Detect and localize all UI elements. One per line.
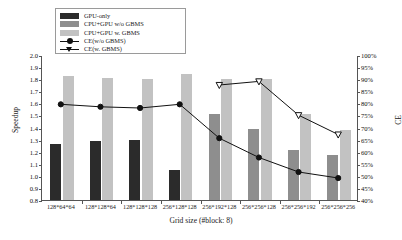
y-tick-mark-right (357, 165, 360, 166)
y-tick-mark-right (357, 129, 360, 130)
legend-item: CE(w/o GBMS) (60, 37, 181, 45)
y-tick-label-left: 1.6 (30, 101, 38, 108)
legend-swatch-cpu-gpu-wo-gbms (60, 21, 79, 27)
y-tick-label-right: 65% (361, 137, 373, 144)
y-tick-label-left: 1.1 (30, 161, 38, 168)
y-tick-mark-left (39, 116, 42, 117)
y-tick-mark-left (39, 153, 42, 154)
y-tick-mark-left (39, 141, 42, 142)
y-tick-label-right: 45% (361, 186, 373, 193)
y-tick-mark-right (357, 153, 360, 154)
x-tick-label: 256*256*192 (282, 204, 316, 210)
y-tick-mark-left (39, 177, 42, 178)
y-tick-mark-left (39, 68, 42, 69)
y-tick-label-right: 85% (361, 89, 373, 96)
x-tick-label: 256*192*128 (202, 204, 236, 210)
y-tick-mark-right (357, 177, 360, 178)
y-tick-mark-right (357, 80, 360, 81)
x-tick-label: 256*128*128 (163, 204, 197, 210)
bar-cpu-gpu-w-gbms (102, 78, 113, 200)
legend-line-ce-w-gbms (60, 46, 79, 52)
y-tick-label-left: 0.8 (30, 198, 38, 205)
x-tick-label: 256*256*256 (321, 204, 355, 210)
legend-item: GPU-only (60, 12, 181, 20)
plot-area: 2.01.91.81.71.61.51.41.31.21.11.00.90.81… (41, 56, 358, 201)
legend-swatch-gpu-only (60, 13, 79, 19)
y-tick-mark-left (39, 104, 42, 105)
y-tick-mark-right (357, 116, 360, 117)
bar-cpu-gpu-w-o-gbms (327, 155, 338, 200)
bar-gpu-only (169, 170, 180, 200)
y-tick-label-right: 90% (361, 77, 373, 84)
legend-label: CE(w. GBMS) (84, 46, 122, 52)
legend-item: CPU+GPU w. GBMS (60, 29, 181, 37)
y-tick-label-left: 1.3 (30, 137, 38, 144)
y-tick-label-left: 1.4 (30, 125, 38, 132)
y-tick-mark-right (357, 189, 360, 190)
x-axis-title: Grid size (#block: 8) (0, 216, 402, 225)
y-tick-label-right: 50% (361, 174, 373, 181)
bar-cpu-gpu-w-o-gbms (209, 114, 220, 200)
bar-cpu-gpu-w-gbms (181, 74, 192, 200)
legend: GPU-only CPU+GPU w/o GBMS CPU+GPU w. GBM… (55, 8, 186, 54)
legend-label: CPU+GPU w. GBMS (84, 30, 140, 36)
bar-cpu-gpu-w-gbms (63, 76, 74, 200)
chart-figure: Speedup CE 2.01.91.81.71.61.51.41.31.21.… (0, 0, 402, 240)
y-tick-mark-right (357, 201, 360, 202)
y-tick-label-left: 1.2 (30, 149, 38, 156)
x-tick-label: 128*128*128 (123, 204, 157, 210)
bar-cpu-gpu-w-o-gbms (288, 150, 299, 200)
legend-label: GPU-only (84, 13, 110, 19)
bar-cpu-gpu-w-gbms (142, 79, 153, 200)
y-tick-label-left: 1.7 (30, 89, 38, 96)
y-tick-label-right: 40% (361, 198, 373, 205)
y-tick-label-right: 80% (361, 101, 373, 108)
x-tick-mark (82, 200, 83, 204)
bar-cpu-gpu-w-o-gbms (248, 129, 259, 200)
y-tick-mark-right (357, 92, 360, 93)
y-tick-mark-right (357, 141, 360, 142)
bar-cpu-gpu-w-gbms (261, 79, 272, 200)
bar-cpu-gpu-w-gbms (221, 79, 232, 200)
y-tick-label-left: 2.0 (30, 53, 38, 60)
legend-item: CE(w. GBMS) (60, 45, 181, 53)
x-tick-label: 256*256*128 (242, 204, 276, 210)
y-tick-label-right: 70% (361, 125, 373, 132)
y-tick-mark-left (39, 56, 42, 57)
y-tick-label-left: 0.9 (30, 186, 38, 193)
y-tick-mark-left (39, 189, 42, 190)
legend-label: CPU+GPU w/o GBMS (84, 21, 144, 27)
y-axis-label-right: CE (395, 115, 402, 125)
bar-gpu-only (50, 144, 61, 200)
y-tick-label-left: 1.0 (30, 174, 38, 181)
y-tick-mark-left (39, 92, 42, 93)
y-tick-mark-right (357, 104, 360, 105)
y-tick-label-left: 1.5 (30, 113, 38, 120)
bar-gpu-only (90, 141, 101, 200)
y-tick-label-right: 60% (361, 149, 373, 156)
y-tick-mark-right (357, 68, 360, 69)
y-tick-label-right: 95% (361, 65, 373, 72)
y-tick-mark-left (39, 129, 42, 130)
y-tick-mark-left (39, 80, 42, 81)
y-tick-label-right: 75% (361, 113, 373, 120)
legend-label: CE(w/o GBMS) (84, 38, 126, 44)
y-tick-label-left: 1.9 (30, 65, 38, 72)
bar-cpu-gpu-w-gbms (340, 130, 351, 200)
y-tick-label-right: 100% (361, 53, 376, 60)
bar-gpu-only (129, 140, 140, 200)
y-axis-label-left: Speedup (11, 107, 20, 133)
y-tick-label-right: 55% (361, 161, 373, 168)
y-tick-mark-left (39, 201, 42, 202)
legend-line-ce-wo-gbms (60, 38, 79, 44)
bar-cpu-gpu-w-gbms (300, 114, 311, 200)
y-tick-label-left: 1.8 (30, 77, 38, 84)
filled-circle-marker-icon (67, 38, 73, 44)
legend-swatch-cpu-gpu-w-gbms (60, 30, 79, 36)
legend-item: CPU+GPU w/o GBMS (60, 20, 181, 28)
y-tick-mark-left (39, 165, 42, 166)
x-tick-label: 128*64*64 (47, 204, 75, 210)
x-tick-label: 128*128*64 (85, 204, 116, 210)
y-tick-mark-right (357, 56, 360, 57)
open-triangle-marker-icon (66, 47, 72, 52)
